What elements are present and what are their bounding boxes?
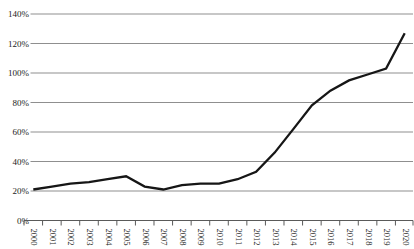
- y-axis-tick-label: 80%: [13, 98, 30, 108]
- y-axis-tick-label: 60%: [13, 127, 30, 137]
- y-axis-tick-label: 120%: [8, 39, 30, 49]
- x-axis-tick-label: 2014: [289, 229, 299, 247]
- x-axis-tick-label: 2004: [104, 229, 114, 247]
- x-axis-tick-label: 2020: [401, 229, 411, 246]
- x-axis-tick-label: 2018: [364, 229, 374, 246]
- x-axis-tick-label: 2011: [234, 229, 244, 246]
- x-axis-tick-label: 2017: [345, 229, 355, 246]
- y-axis-tick-label: 100%: [8, 68, 30, 78]
- x-axis-tick-label: 2000: [29, 229, 39, 246]
- y-axis-tick-label: 40%: [13, 157, 30, 167]
- x-axis-tick-label: 2013: [271, 229, 281, 246]
- y-axis-tick-label: 20%: [13, 186, 30, 196]
- x-axis-tick-label: 2010: [215, 229, 225, 246]
- x-axis-tick-label: 2001: [48, 229, 58, 246]
- x-axis-tick-label: 2012: [252, 229, 262, 246]
- chart-canvas: 0%20%40%60%80%100%120%140%20002001200220…: [0, 0, 414, 249]
- y-axis-tick-label: 140%: [8, 9, 30, 19]
- data-series-line: [33, 33, 404, 189]
- x-axis-tick-label: 2016: [326, 229, 336, 246]
- x-axis-tick-label: 2002: [66, 229, 76, 246]
- x-axis-tick-label: 2005: [122, 229, 132, 246]
- x-axis-tick-label: 2008: [178, 229, 188, 246]
- x-axis-tick-label: 2006: [141, 229, 151, 246]
- x-axis-tick-label: 2019: [382, 229, 392, 246]
- x-axis-tick-label: 2003: [85, 229, 95, 246]
- x-axis-tick-label: 2009: [196, 229, 206, 246]
- line-chart: 0%20%40%60%80%100%120%140%20002001200220…: [0, 0, 414, 249]
- x-axis-tick-label: 2015: [308, 229, 318, 246]
- x-axis-tick-label: 2007: [159, 229, 169, 246]
